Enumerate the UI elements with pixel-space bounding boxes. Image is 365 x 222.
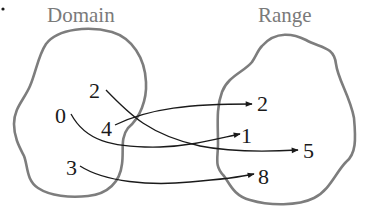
stray-dot: [1, 7, 4, 10]
range-set-outline: [217, 35, 355, 205]
range-element: 8: [258, 164, 269, 189]
domain-title: Domain: [47, 3, 115, 27]
domain-element: 3: [66, 155, 77, 180]
domain-set-outline: [14, 29, 146, 197]
range-element: 2: [257, 91, 268, 116]
domain-element: 2: [89, 78, 100, 103]
range-element: 5: [303, 138, 314, 163]
domain-element: 0: [55, 103, 66, 128]
function-mapping-diagram: Domain Range 2 0 4 3 2 1 5 8: [0, 0, 365, 222]
range-element: 1: [241, 123, 252, 148]
range-title: Range: [258, 3, 312, 27]
domain-element: 4: [101, 116, 112, 141]
